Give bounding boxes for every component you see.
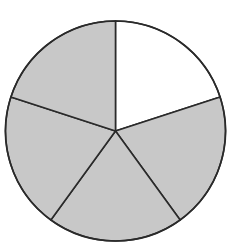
pie-chart xyxy=(0,0,233,245)
pie-slices xyxy=(6,21,226,241)
